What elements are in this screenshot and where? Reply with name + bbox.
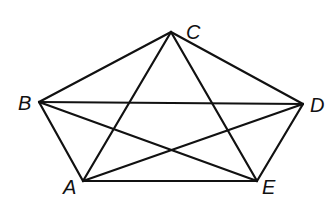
- vertex-label-e: E: [262, 176, 276, 198]
- diagonal-bd: [39, 102, 303, 104]
- side-ab: [39, 102, 83, 181]
- vertex-label-c: C: [186, 21, 201, 43]
- vertex-label-a: A: [62, 176, 76, 198]
- diagonal-be: [39, 102, 257, 181]
- vertex-label-d: D: [310, 94, 324, 116]
- side-de: [257, 104, 303, 181]
- pentagon-diagram: A B C D E: [0, 0, 334, 199]
- diagonal-ad: [83, 104, 303, 181]
- vertex-label-b: B: [18, 92, 31, 114]
- pentagon-sides: [39, 32, 303, 181]
- vertex-labels: A B C D E: [18, 21, 324, 198]
- pentagon-diagonals: [39, 32, 303, 181]
